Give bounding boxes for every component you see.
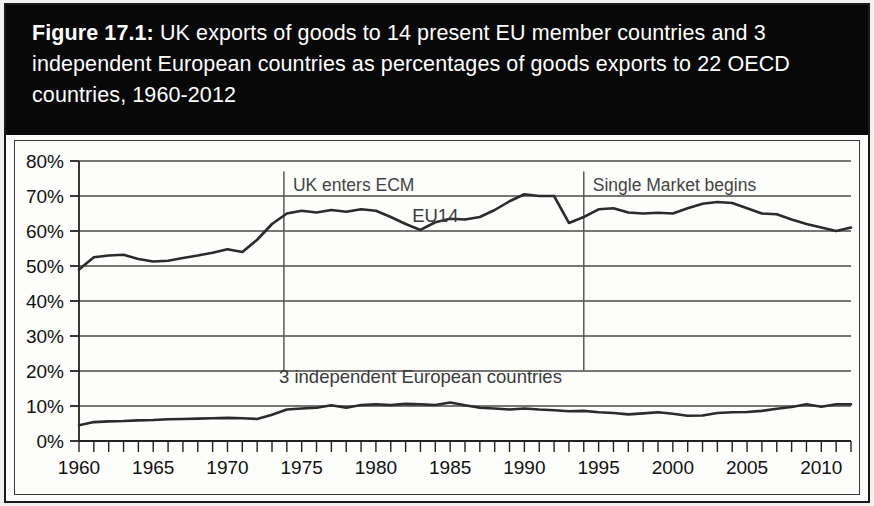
y-gridlines: 0%10%20%30%40%50%60%70%80% [26, 151, 851, 452]
figure-title: Figure 17.1: UK exports of goods to 14 p… [32, 18, 842, 111]
series-label: 3 independent European countries [279, 366, 562, 387]
y-tick-label: 40% [26, 291, 64, 312]
x-tick-label: 2005 [726, 457, 768, 478]
series-label: EU14 [412, 205, 458, 226]
y-tick-label: 60% [26, 221, 64, 242]
x-tick-label: 2000 [652, 457, 694, 478]
y-tick-label: 80% [26, 151, 64, 172]
figure-container: Figure 17.1: UK exports of goods to 14 p… [0, 0, 874, 506]
y-tick-label: 70% [26, 186, 64, 207]
x-tick-label: 1980 [355, 457, 397, 478]
x-tick-label: 2010 [800, 457, 842, 478]
y-tick-label: 0% [37, 431, 65, 452]
x-tick-label: 1970 [206, 457, 248, 478]
figure-title-band: Figure 17.1: UK exports of goods to 14 p… [6, 5, 868, 135]
x-minor-ticks [79, 441, 851, 452]
x-tick-label: 1985 [429, 457, 471, 478]
series-line [79, 194, 851, 269]
x-tick-label: 1975 [281, 457, 323, 478]
chart-panel: 0%10%20%30%40%50%60%70%80%19601965197019… [14, 140, 860, 495]
y-tick-label: 50% [26, 256, 64, 277]
annotations: UK enters ECMSingle Market begins [284, 172, 757, 372]
x-tick-label: 1995 [577, 457, 619, 478]
annotation-label: Single Market begins [593, 175, 757, 195]
y-tick-label: 20% [26, 361, 64, 382]
y-tick-label: 10% [26, 396, 64, 417]
x-tick-label: 1960 [58, 457, 100, 478]
data-series-group [79, 194, 851, 425]
figure-number: Figure 17.1: [32, 21, 154, 45]
x-tick-label: 1965 [132, 457, 174, 478]
y-tick-label: 30% [26, 326, 64, 347]
series-labels: EU143 independent European countries [279, 205, 562, 387]
x-tick-label: 1990 [503, 457, 545, 478]
line-chart: 0%10%20%30%40%50%60%70%80%19601965197019… [15, 141, 859, 494]
x-tick-labels: 1960196519701975198019851990199520002005… [58, 457, 843, 478]
annotation-label: UK enters ECM [293, 175, 415, 195]
